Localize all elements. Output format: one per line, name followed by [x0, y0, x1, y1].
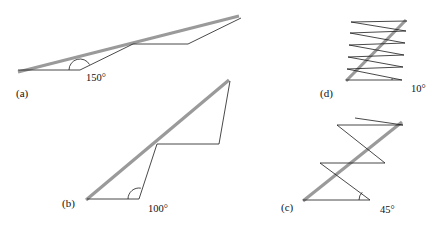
panel-label-c: (c) [281, 202, 293, 213]
panel-c-chord-line [303, 122, 402, 201]
panel-label-d: (d) [320, 88, 333, 99]
panel-a-graphic [18, 16, 241, 72]
panel-b-angle-arc [128, 188, 141, 199]
panel-a-angle-label: 150° [86, 73, 106, 84]
panel-a-chord-line [18, 16, 239, 72]
figure-canvas [0, 0, 440, 226]
panel-c-angle-label: 45° [380, 205, 395, 216]
panel-a-angle-arc [69, 59, 90, 70]
panel-d-graphic [346, 20, 407, 81]
panel-label-b: (b) [62, 198, 75, 209]
panel-b-angle-label: 100° [148, 204, 168, 215]
panel-b-graphic [86, 80, 230, 200]
panel-d-angle-label: 10° [411, 84, 426, 95]
panel-label-a: (a) [16, 88, 28, 99]
geometry-figure: (a) 150° (b) 100° (c) 45° (d) 10° [0, 0, 440, 226]
panel-b-chord-line [86, 80, 229, 200]
panel-c-graphic [303, 118, 403, 201]
